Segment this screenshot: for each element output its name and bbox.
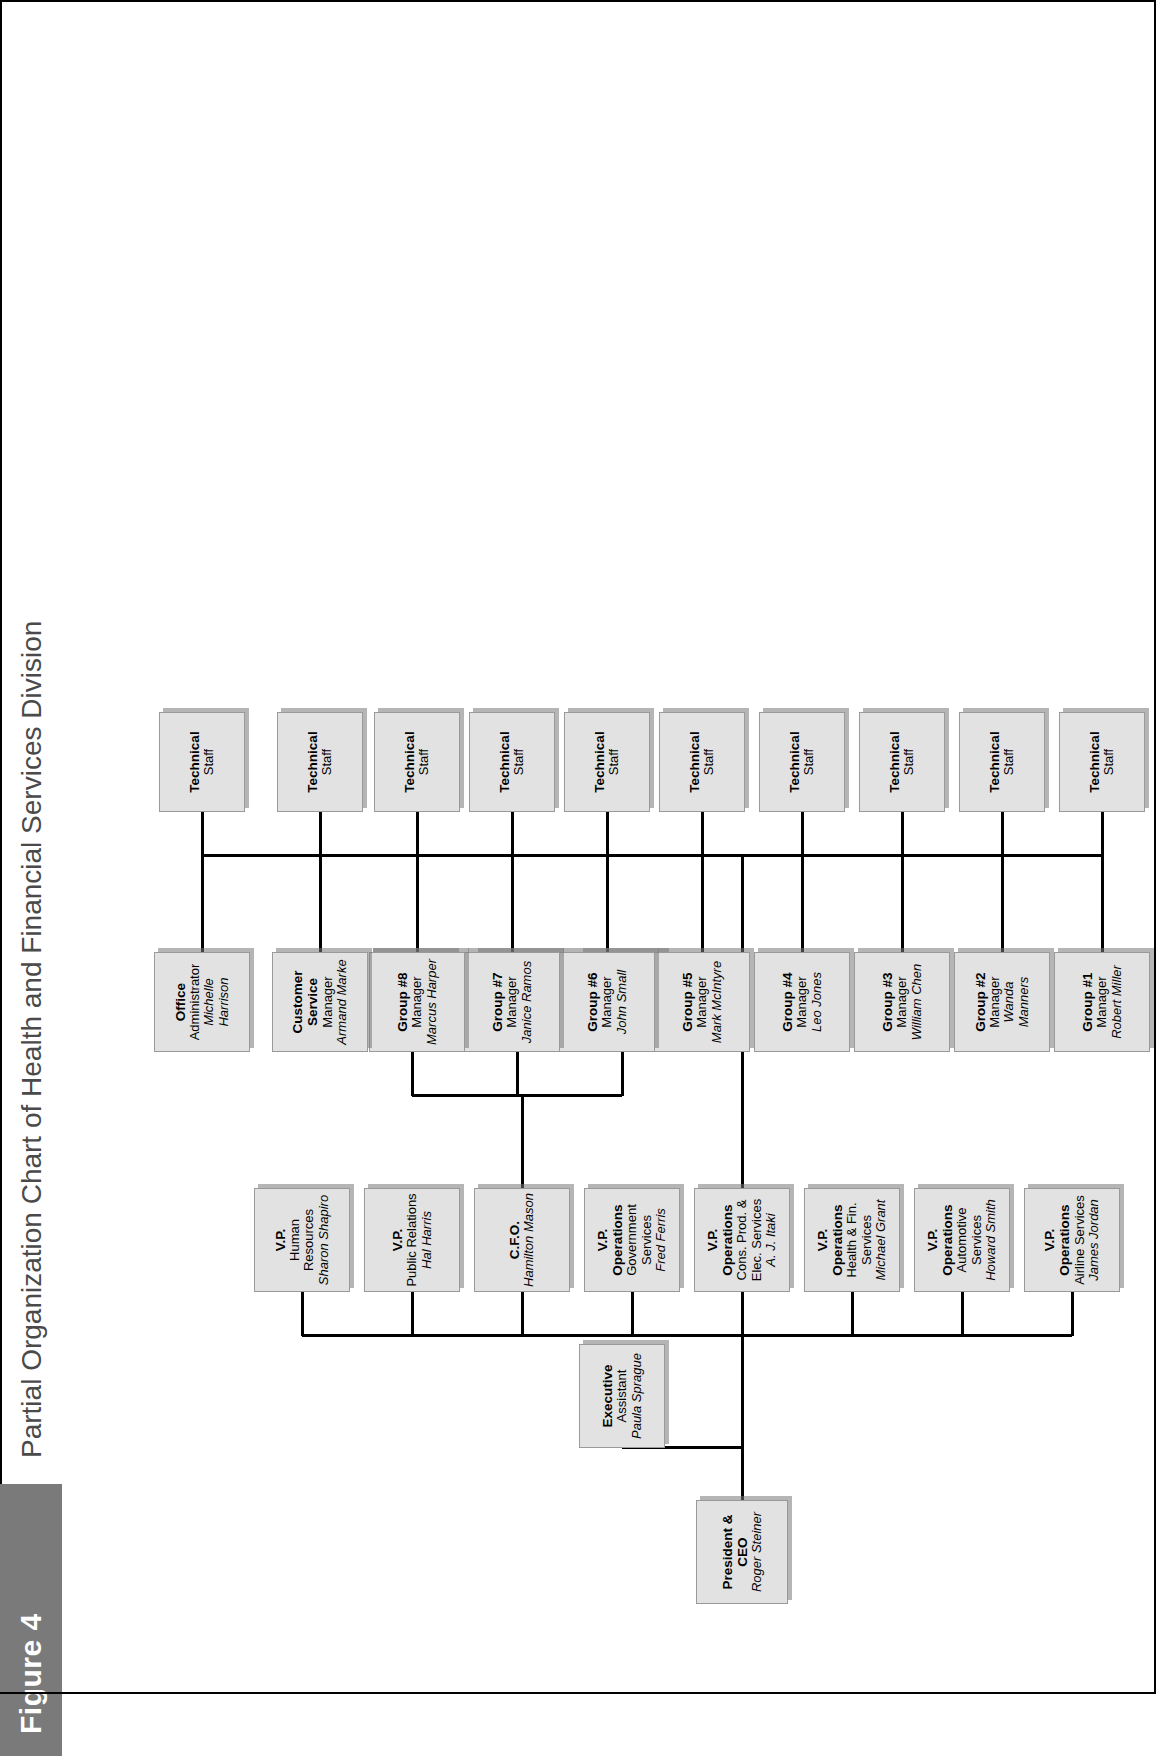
org-node-ts10[interactable]: TechnicalStaff: [159, 712, 245, 812]
org-node-vp_hr[interactable]: V.P.Human ResourcesSharon Shapiro: [254, 1188, 350, 1292]
org-node-title: Technical: [592, 731, 607, 792]
org-node-vp_auto[interactable]: V.P. OperationsAutomotive ServicesHoward…: [914, 1188, 1010, 1292]
org-node-title: V.P. Operations: [925, 1192, 955, 1288]
org-node-subtitle: Staff: [1102, 749, 1117, 776]
org-node-grp3[interactable]: Group #3ManagerWilliam Chen: [854, 952, 950, 1052]
org-node-title: V.P. Operations: [705, 1192, 735, 1288]
org-node-grp4[interactable]: Group #4ManagerLeo Jones: [754, 952, 850, 1052]
org-node-person: Howard Smith: [984, 1199, 999, 1281]
org-node-person: Armand Marke: [335, 959, 350, 1044]
connector-cfo-trunk: [521, 1096, 524, 1188]
org-node-title: V.P. Operations: [1042, 1192, 1072, 1288]
org-node-title: Group #2: [973, 972, 988, 1031]
org-node-ts4[interactable]: TechnicalStaff: [759, 712, 845, 812]
org-node-title: Group #7: [490, 972, 505, 1031]
figure-title-text: Partial Organization Chart of Health and…: [16, 621, 48, 1458]
connector-group-vtrunk: [202, 854, 1102, 857]
org-node-subtitle: Public Relations: [405, 1193, 420, 1286]
org-node-person: James Jordan: [1087, 1199, 1102, 1281]
org-node-ts5[interactable]: TechnicalStaff: [659, 712, 745, 812]
org-node-subtitle: Manager: [505, 976, 520, 1027]
connector-grp8-ts8: [416, 812, 419, 952]
org-node-title: Technical: [987, 731, 1002, 792]
org-node-title: Technical: [497, 731, 512, 792]
org-node-grp7[interactable]: Group #7ManagerJanice Ramos: [464, 952, 560, 1052]
org-node-grp2[interactable]: Group #2ManagerWanda Manners: [954, 952, 1050, 1052]
org-node-subtitle: Assistant: [615, 1370, 630, 1423]
org-node-person: Hamilton Mason: [522, 1193, 537, 1287]
frame-left-rail: [0, 1692, 62, 1694]
org-node-subtitle: Staff: [607, 749, 622, 776]
org-node-person: A. J. Itaki: [764, 1213, 779, 1266]
org-node-subtitle: Manager: [695, 976, 710, 1027]
org-node-title: Technical: [787, 731, 802, 792]
org-node-title: Group #1: [1080, 972, 1095, 1031]
org-node-subtitle: Staff: [417, 749, 432, 776]
org-node-subtitle: Staff: [902, 749, 917, 776]
org-node-ts2[interactable]: TechnicalStaff: [959, 712, 1045, 812]
org-node-ts7[interactable]: TechnicalStaff: [469, 712, 555, 812]
org-node-subtitle: Manager: [895, 976, 910, 1027]
org-node-subtitle: Staff: [320, 749, 335, 776]
org-node-ts1[interactable]: TechnicalStaff: [1059, 712, 1145, 812]
org-node-vp_gov[interactable]: V.P. OperationsGovernment ServicesFred F…: [584, 1188, 680, 1292]
figure-page: Figure 4 Partial Organization Chart of H…: [0, 0, 1156, 1756]
connector-grp3-ts3: [901, 812, 904, 952]
connector-cust_svc-ts9: [319, 812, 322, 952]
org-node-title: Technical: [187, 731, 202, 792]
org-node-ceo[interactable]: President & CEORoger Steiner: [696, 1500, 788, 1604]
org-node-exec[interactable]: ExecutiveAssistantPaula Sprague: [579, 1344, 665, 1448]
org-node-ts6[interactable]: TechnicalStaff: [564, 712, 650, 812]
org-node-person: Hal Harris: [420, 1211, 435, 1269]
org-node-person: William Chen: [910, 964, 925, 1040]
org-node-cfo[interactable]: C.F.O.Hamilton Mason: [474, 1188, 570, 1292]
org-node-ts8[interactable]: TechnicalStaff: [374, 712, 460, 812]
org-node-person: Roger Steiner: [750, 1512, 765, 1592]
org-node-title: Technical: [402, 731, 417, 792]
connector-branch-controller: [516, 1052, 519, 1096]
org-node-office_adm[interactable]: OfficeAdministratorMichelle Harrison: [154, 952, 250, 1052]
connector-grp1-ts1: [1101, 812, 1104, 952]
org-node-subtitle: Manager: [321, 976, 336, 1027]
org-node-title: V.P. Operations: [595, 1192, 625, 1288]
org-node-subtitle: Staff: [802, 749, 817, 776]
org-chart-canvas: President & CEORoger SteinerExecutiveAss…: [62, 0, 1156, 1694]
org-node-subtitle: Staff: [702, 749, 717, 776]
connector-grp2-ts2: [1001, 812, 1004, 952]
org-node-vp_air[interactable]: V.P. OperationsAirline ServicesJames Jor…: [1024, 1188, 1120, 1292]
org-node-person: Michael Grant: [874, 1200, 889, 1281]
org-node-vp_hf[interactable]: V.P. OperationsHealth & Fin. ServicesMic…: [804, 1188, 900, 1292]
org-node-subtitle: Manager: [410, 976, 425, 1027]
org-node-subtitle: Automotive Services: [955, 1192, 984, 1288]
org-node-ts3[interactable]: TechnicalStaff: [859, 712, 945, 812]
org-node-cust_svc[interactable]: Customer ServiceManagerArmand Marke: [272, 952, 368, 1052]
org-node-title: Office: [173, 983, 188, 1021]
org-node-subtitle: Cons. Prod. & Elec. Services: [735, 1192, 764, 1288]
connector-branch-dir_admin: [621, 1052, 624, 1096]
figure-number-label: Figure 4: [14, 1613, 48, 1734]
org-node-ts9[interactable]: TechnicalStaff: [277, 712, 363, 812]
org-node-subtitle: Manager: [988, 976, 1003, 1027]
org-node-vp_cons[interactable]: V.P. OperationsCons. Prod. & Elec. Servi…: [694, 1188, 790, 1292]
org-node-title: Technical: [687, 731, 702, 792]
org-node-subtitle: Health & Fin. Services: [845, 1192, 874, 1288]
org-node-subtitle: Staff: [1002, 749, 1017, 776]
org-node-subtitle: Staff: [202, 749, 217, 776]
org-node-subtitle: Manager: [795, 976, 810, 1027]
org-node-title: C.F.O.: [507, 1221, 522, 1259]
connector-vp-trunk: [302, 1334, 1072, 1337]
org-node-title: Group #8: [395, 972, 410, 1031]
org-node-grp6[interactable]: Group #6ManagerJohn Small: [559, 952, 655, 1052]
org-node-grp5[interactable]: Group #5ManagerMark McIntyre: [654, 952, 750, 1052]
org-node-grp1[interactable]: Group #1ManagerRobert Miller: [1054, 952, 1150, 1052]
connector-branch-vp_hf: [851, 1292, 854, 1336]
figure-title-bar: Partial Organization Chart of Health and…: [0, 0, 62, 1484]
org-node-grp8[interactable]: Group #8ManagerMarcus Harper: [369, 952, 465, 1052]
org-node-vp_pr[interactable]: V.P.Public RelationsHal Harris: [364, 1188, 460, 1292]
rotated-figure-canvas: Figure 4 Partial Organization Chart of H…: [0, 0, 1156, 1756]
org-node-person: Marcus Harper: [425, 959, 440, 1045]
org-node-subtitle: Human Resources: [288, 1192, 317, 1288]
figure-header: Figure 4 Partial Organization Chart of H…: [0, 0, 62, 1756]
org-node-title: Technical: [1087, 731, 1102, 792]
org-node-subtitle: Staff: [512, 749, 527, 776]
